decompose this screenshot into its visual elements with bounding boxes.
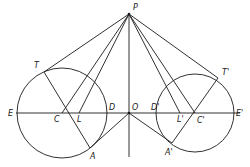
label-C: C: [54, 115, 60, 124]
line-PC: [62, 14, 129, 113]
label-A-prime: A': [164, 148, 173, 157]
line-PC-prime: [129, 14, 195, 113]
point-P: [128, 13, 131, 16]
label-P: P: [133, 3, 138, 12]
label-D: D: [109, 103, 115, 112]
line-OA: [90, 113, 129, 148]
line-OA-prime: [129, 113, 172, 143]
point-O: [128, 112, 131, 115]
label-L-prime: L': [177, 115, 184, 124]
label-E: E: [8, 109, 14, 118]
label-C-prime: C': [197, 116, 205, 125]
label-E-prime: E': [236, 109, 243, 118]
label-A: A: [89, 152, 95, 161]
label-L: L: [77, 115, 81, 124]
label-T-prime: T': [222, 68, 229, 77]
tangent-PT-prime: [129, 14, 218, 78]
line-TCA: [44, 72, 90, 148]
label-D-prime: D': [151, 103, 159, 112]
line-PL: [79, 14, 129, 113]
line-PL-prime: [129, 14, 180, 113]
geometry-diagram: P O T T' C C' L L' D D' E E' A A': [0, 0, 250, 167]
label-T: T: [34, 61, 40, 70]
tangent-PT: [44, 14, 129, 72]
label-O: O: [132, 103, 138, 112]
